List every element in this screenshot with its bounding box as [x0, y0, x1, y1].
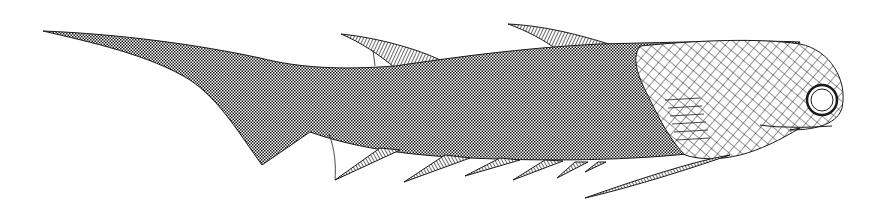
fish-drawing: [0, 0, 886, 215]
pectoral-fin: [585, 155, 730, 198]
fish-illustration: [0, 0, 886, 215]
